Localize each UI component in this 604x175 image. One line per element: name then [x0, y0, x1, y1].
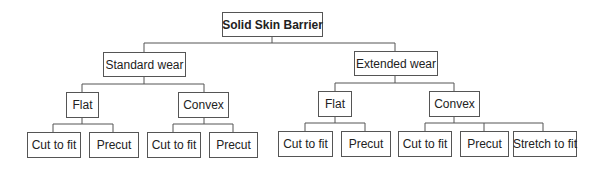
- node-extended-convex: Convex: [429, 91, 480, 117]
- node-extended-flat: Flat: [318, 91, 352, 117]
- node-standard-flat-cut-to-fit: Cut to fit: [27, 132, 81, 158]
- node-extended-flat-cut-to-fit: Cut to fit: [278, 131, 333, 157]
- node-extended-convex-precut: Precut: [460, 131, 509, 157]
- node-extended-flat-precut: Precut: [341, 131, 391, 157]
- node-standard-flat: Flat: [66, 92, 99, 118]
- node-standard-convex: Convex: [178, 92, 229, 118]
- node-solid-skin-barrier: Solid Skin Barrier: [222, 12, 323, 37]
- node-extended-convex-stretch-to-fit: Stretch to fit: [513, 131, 577, 157]
- node-standard-convex-cut-to-fit: Cut to fit: [147, 132, 201, 158]
- node-standard-wear: Standard wear: [103, 52, 186, 77]
- node-standard-flat-precut: Precut: [89, 132, 139, 158]
- node-extended-wear: Extended wear: [354, 51, 438, 76]
- node-extended-convex-cut-to-fit: Cut to fit: [398, 131, 452, 157]
- node-standard-convex-precut: Precut: [209, 132, 258, 158]
